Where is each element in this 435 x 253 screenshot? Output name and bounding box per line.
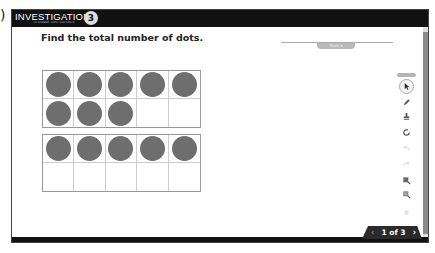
tool-palette-drag-handle[interactable]: [397, 73, 416, 77]
lesson-window: INVESTIGATIONS IN NUMBER, DATA, AND SPAC…: [11, 9, 429, 243]
ten-frame-cell[interactable]: [106, 135, 137, 163]
ten-frame-cell[interactable]: [169, 99, 200, 127]
ten-frame-cell[interactable]: [106, 163, 137, 191]
ten-frame-cell[interactable]: [106, 71, 137, 99]
ten-frame-cell[interactable]: [169, 135, 200, 163]
ten-frame-cell[interactable]: [74, 99, 105, 127]
stamp-icon: [402, 112, 411, 121]
zoom-in-button[interactable]: [399, 173, 414, 188]
pagination-tab: ‹ 1 of 3 ›: [362, 226, 422, 239]
counter-dot: [108, 101, 133, 126]
redo-button[interactable]: [399, 157, 414, 172]
ten-frame-1: [42, 70, 201, 128]
zoom-out-button[interactable]: [399, 187, 414, 202]
counter-dot: [46, 136, 71, 161]
trash-icon: [402, 208, 411, 217]
clear-button[interactable]: [399, 205, 414, 220]
ten-frame-cell[interactable]: [43, 71, 74, 99]
ten-frame-cell[interactable]: [74, 71, 105, 99]
ten-frame-cell[interactable]: [74, 135, 105, 163]
undo-button[interactable]: [399, 141, 414, 156]
ten-frame-cell[interactable]: [137, 163, 168, 191]
ten-frame-cell[interactable]: [137, 71, 168, 99]
undo-icon: [402, 144, 411, 153]
edge-fragment: ): [0, 7, 5, 23]
ten-frame-cell[interactable]: [169, 163, 200, 191]
counter-dot: [108, 136, 133, 161]
ten-frame-cell[interactable]: [74, 163, 105, 191]
ten-frame-cell[interactable]: [43, 99, 74, 127]
zoom-out-icon: [402, 190, 411, 199]
vertical-scrollbar[interactable]: [423, 27, 428, 239]
tool-palette: [396, 73, 417, 219]
rotate-icon: [402, 128, 411, 137]
ten-frame-2: [42, 134, 201, 192]
counter-dot: [140, 136, 165, 161]
ten-frame-cell[interactable]: [137, 99, 168, 127]
title-bar: INVESTIGATIONS IN NUMBER, DATA, AND SPAC…: [12, 10, 428, 27]
stamp-tool[interactable]: [399, 109, 414, 124]
app-logo-subtitle: IN NUMBER, DATA, AND SPACE: [34, 21, 75, 24]
activity-area: Find the total number of dots. Tools ▾: [12, 27, 425, 239]
previous-page-button[interactable]: ‹: [371, 228, 374, 237]
grade-badge: 3: [84, 11, 98, 25]
counter-dot: [108, 72, 133, 97]
ten-frame-cell[interactable]: [43, 135, 74, 163]
counter-dot: [77, 136, 102, 161]
tools-dropdown-tab[interactable]: Tools ▾: [317, 43, 355, 49]
zoom-in-icon: [402, 176, 411, 185]
tools-tab-label: Tools: [329, 43, 339, 48]
page-indicator: 1 of 3: [381, 228, 405, 237]
scroll-up-arrow[interactable]: [423, 27, 428, 32]
counter-dot: [46, 72, 71, 97]
counter-dot: [140, 72, 165, 97]
ten-frame-cell[interactable]: [169, 71, 200, 99]
next-page-button[interactable]: ›: [413, 228, 416, 237]
cursor-icon: [402, 82, 411, 91]
pointer-tool[interactable]: [399, 79, 414, 94]
redo-icon: [402, 160, 411, 169]
ten-frame-cell[interactable]: [106, 99, 137, 127]
rotate-tool[interactable]: [399, 125, 414, 140]
pencil-icon: [402, 98, 411, 107]
pen-tool[interactable]: [399, 95, 414, 110]
chevron-down-icon: ▾: [339, 43, 342, 48]
ten-frame-cell[interactable]: [43, 163, 74, 191]
question-prompt: Find the total number of dots.: [41, 32, 203, 43]
counter-dot: [46, 101, 71, 126]
counter-dot: [77, 101, 102, 126]
counter-dot: [172, 72, 197, 97]
counter-dot: [77, 72, 102, 97]
ten-frame-cell[interactable]: [137, 135, 168, 163]
counter-dot: [172, 136, 197, 161]
